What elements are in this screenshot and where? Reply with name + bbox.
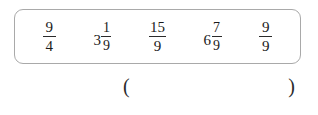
fraction-numerator: 1 (102, 20, 111, 35)
fraction-bar (149, 36, 166, 37)
math-term: 9 4 (43, 19, 56, 54)
fraction-numerator: 15 (149, 19, 166, 35)
answer-blank[interactable] (136, 77, 283, 95)
fraction-bar (43, 36, 56, 37)
mixed-whole-number: 6 (204, 33, 212, 48)
math-term: 9 9 (259, 19, 272, 54)
fraction-numerator: 9 (261, 19, 271, 35)
worksheet: 9 4 3 1 9 15 9 6 7 9 (0, 0, 318, 115)
mixed-whole-number: 3 (93, 33, 101, 48)
fraction-denominator: 9 (212, 38, 221, 53)
fraction-denominator: 4 (45, 38, 55, 54)
math-term: 3 1 9 (93, 20, 111, 53)
fraction: 9 4 (43, 19, 56, 54)
fraction: 1 9 (101, 20, 111, 53)
fraction-numerator: 9 (45, 19, 55, 35)
fraction-denominator: 9 (102, 38, 111, 53)
fraction-bar (101, 36, 111, 37)
fraction-denominator: 9 (153, 38, 163, 54)
fraction: 15 9 (149, 19, 166, 54)
expression-box: 9 4 3 1 9 15 9 6 7 9 (14, 9, 301, 64)
fraction-bar (259, 36, 272, 37)
answer-row: ( ) (123, 72, 295, 100)
fraction-numerator: 7 (212, 20, 221, 35)
fraction-denominator: 9 (261, 38, 271, 54)
open-paren: ( (123, 76, 130, 96)
close-paren: ) (288, 76, 295, 96)
math-term: 15 9 (149, 19, 166, 54)
fraction-bar (212, 36, 222, 37)
fraction: 7 9 (212, 20, 222, 53)
fraction: 9 9 (259, 19, 272, 54)
math-term: 6 7 9 (204, 20, 222, 53)
